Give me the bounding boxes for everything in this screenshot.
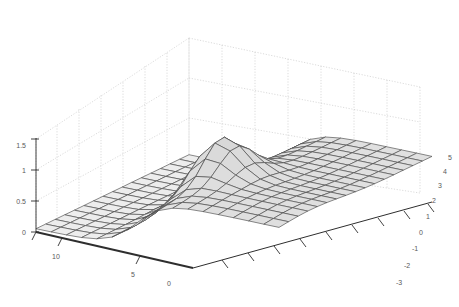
x-tick-label-5: 5 xyxy=(131,271,135,278)
surface-plot-figure: 0 0.5 1 1.5 10 5 0 -3 -2 -1 0 1 2 3 4 5 xyxy=(0,0,459,307)
z-tick-label-1: 1 xyxy=(22,167,26,174)
z-axis-ticks xyxy=(31,139,39,232)
y-tick-label--1: -1 xyxy=(412,245,418,252)
z-tick-label-0.5: 0.5 xyxy=(16,198,26,205)
x-tick-label-10: 10 xyxy=(52,253,60,260)
z-tick-label-0: 0 xyxy=(22,229,26,236)
y-tick-label-1: 1 xyxy=(426,213,430,220)
mesh-surface xyxy=(36,137,432,239)
plot-canvas: 0 0.5 1 1.5 10 5 0 -3 -2 -1 0 1 2 3 4 5 xyxy=(0,0,459,307)
x-tick-label-0: 0 xyxy=(167,280,171,287)
y-tick-label--3: -3 xyxy=(396,279,402,286)
y-tick-label--2: -2 xyxy=(404,262,410,269)
z-tick-label-1.5: 1.5 xyxy=(16,142,26,149)
y-tick-label-5: 5 xyxy=(448,154,452,161)
y-tick-label-4: 4 xyxy=(443,168,447,175)
y-tick-label-3: 3 xyxy=(438,182,442,189)
y-tick-label-2: 2 xyxy=(432,197,436,204)
y-tick-label-0: 0 xyxy=(419,229,423,236)
